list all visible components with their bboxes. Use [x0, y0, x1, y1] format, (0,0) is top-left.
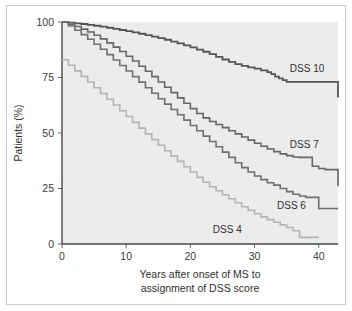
series-label-dss-10: DSS 10 — [290, 63, 325, 74]
y-tick-label: 0 — [48, 238, 54, 250]
figure-container: DSS 10DSS 7DSS 6DSS 4 010203040 02550751… — [0, 0, 352, 311]
y-tick-label: 100 — [36, 16, 54, 28]
series-label-dss-7: DSS 7 — [290, 139, 319, 150]
x-tick-label: 0 — [59, 250, 65, 262]
plot-area — [62, 22, 338, 244]
x-axis-title-line1: Years after onset of MS to — [139, 268, 260, 280]
series-label-dss-4: DSS 4 — [213, 224, 242, 235]
x-tick-label: 20 — [185, 250, 197, 262]
y-axis-title: Patients (%) — [12, 104, 24, 161]
x-tick-labels: 010203040 — [59, 250, 325, 262]
series-label-dss-6: DSS 6 — [277, 200, 306, 211]
x-axis-title-line2: assignment of DSS score — [141, 282, 260, 294]
x-tick-label: 30 — [249, 250, 261, 262]
x-tick-label: 40 — [313, 250, 325, 262]
y-tick-label: 25 — [42, 182, 54, 194]
x-tick-label: 10 — [120, 250, 132, 262]
y-tick-label: 75 — [42, 71, 54, 83]
y-tick-label: 50 — [42, 127, 54, 139]
y-tick-labels: 0255075100 — [36, 16, 54, 250]
survival-curve-chart: DSS 10DSS 7DSS 6DSS 4 010203040 02550751… — [0, 0, 352, 311]
plot-background — [62, 22, 338, 244]
